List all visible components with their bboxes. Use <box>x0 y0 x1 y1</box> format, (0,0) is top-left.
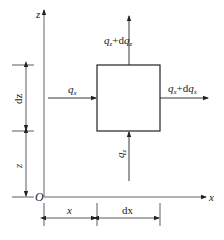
z-axis-label: z <box>35 8 41 20</box>
dimension-x: x <box>44 203 97 226</box>
x-dim-label: x <box>66 204 72 216</box>
qz-in-label: qz <box>114 150 128 159</box>
qz-out-label: qz+dqz <box>104 34 132 48</box>
element-box <box>97 65 160 131</box>
dx-label: dx <box>122 204 134 216</box>
dimension-dx: dx <box>98 203 160 226</box>
dz-label: dz <box>12 94 24 105</box>
z-axis: z <box>35 8 44 197</box>
qx-in-label: qx <box>68 83 78 97</box>
flux-qx-out: qx+dqx <box>160 82 208 98</box>
dimension-z: z <box>12 132 34 197</box>
qx-out-label: qx+dqx <box>168 82 198 96</box>
z-dim-label: z <box>12 163 24 169</box>
flux-diagram: z x O qx qx+dqx qz+dqz qz dz z <box>0 0 224 240</box>
x-axis-label: x <box>208 191 214 203</box>
flux-qz-out: qz+dqz <box>104 16 132 65</box>
origin-label: O <box>35 190 44 204</box>
x-axis: x <box>44 191 214 203</box>
flux-qx-in: qx <box>48 83 96 98</box>
flux-qz-in: qz <box>114 132 129 181</box>
dimension-dz: dz <box>12 65 34 131</box>
